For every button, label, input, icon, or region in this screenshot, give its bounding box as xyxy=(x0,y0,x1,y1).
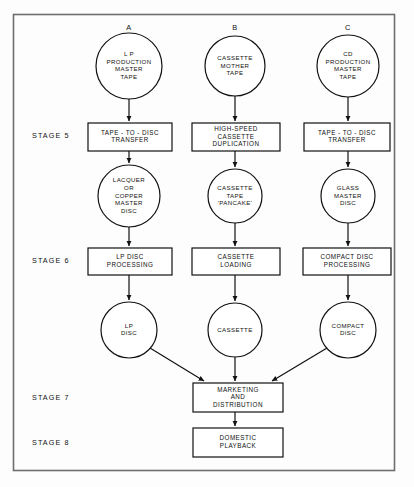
cassette-tape-pancake-circle: CASSETTETAPE'PANCAKE' xyxy=(208,169,262,223)
node-text-line: PLAYBACK xyxy=(220,442,257,449)
cassette-loading-box: CASSETTELOADING xyxy=(192,248,280,275)
node-text-line: CASSETTE xyxy=(218,133,255,140)
node-text-line: CASSETTE xyxy=(217,184,252,191)
tape-to-disc-transfer-c-box: TAPE - TO - DISCTRANSFER xyxy=(304,123,390,151)
node-text-line: OR xyxy=(124,184,134,191)
node-text-line: PRODUCTION xyxy=(107,58,152,65)
node-text-line: TRANSFER xyxy=(111,136,149,143)
node-text-line: CASSETTE xyxy=(218,253,255,260)
connector-compact-disc-to-marketing xyxy=(272,348,327,381)
node-text-line: TAPE xyxy=(120,73,137,80)
node-text-line: DISC xyxy=(121,329,137,336)
node-text-line: DISC xyxy=(340,199,356,206)
connector-lp-disc-to-marketing xyxy=(150,348,204,381)
node-text-line: PROCESSING xyxy=(107,261,154,268)
high-speed-cassette-duplication-box: HIGH-SPEEDCASSETTEDUPLICATION xyxy=(192,123,280,151)
glass-master-disc-circle: GLASSMASTERDISC xyxy=(321,169,375,223)
node-text-line: MASTER xyxy=(115,199,143,206)
column-label-b: B xyxy=(232,23,237,32)
node-text-line: CASSETTE xyxy=(217,54,252,61)
stage-labels-layer: STAGE 5STAGE 6STAGE 7STAGE 8 xyxy=(32,131,70,447)
node-text-line: LP xyxy=(125,322,133,329)
node-text-line: TAPE xyxy=(226,69,243,76)
node-text-line: TRANSFER xyxy=(328,136,366,143)
lacquer-or-copper-master-disc-circle: LACQUERORCOPPERMASTERDISC xyxy=(98,165,160,227)
stage-6-label: STAGE 6 xyxy=(32,256,70,265)
node-text-line: L P xyxy=(124,50,134,57)
node-text-line: GLASS xyxy=(337,184,359,191)
flowchart-canvas: TAPE - TO - DISCTRANSFERHIGH-SPEEDCASSET… xyxy=(0,0,414,487)
circles-layer: L PPRODUCTIONMASTERTAPECASSETTEMOTHERTAP… xyxy=(96,33,379,358)
tape-to-disc-transfer-a-box: TAPE - TO - DISCTRANSFER xyxy=(88,123,172,151)
node-text-line: CD xyxy=(343,50,353,57)
lp-disc-processing-box: LP DISCPROCESSING xyxy=(88,248,172,275)
cd-production-master-tape-circle: CDPRODUCTIONMASTERTAPE xyxy=(317,35,379,97)
node-text-line: AND xyxy=(231,393,246,400)
cassette-mother-tape-circle: CASSETTEMOTHERTAPE xyxy=(205,36,265,96)
node-text-line: TAPE xyxy=(339,73,356,80)
node-text-line: LOADING xyxy=(220,261,252,268)
node-text-line: COMPACT xyxy=(332,322,365,329)
node-text-line: PRODUCTION xyxy=(326,58,371,65)
node-text-line: DUPLICATION xyxy=(213,140,260,147)
node-text-line: HIGH-SPEED xyxy=(214,125,258,132)
node-text-line: MASTER xyxy=(115,65,143,72)
domestic-playback-box: DOMESTICPLAYBACK xyxy=(193,428,283,457)
node-text-line: 'PANCAKE' xyxy=(218,199,253,206)
node-text-line: LACQUER xyxy=(113,176,145,183)
lp-production-master-tape-circle: L PPRODUCTIONMASTERTAPE xyxy=(96,33,162,99)
column-label-c: C xyxy=(345,23,351,32)
node-text-line: DISC xyxy=(340,329,356,336)
node-text-line: COMPACT DISC xyxy=(320,253,373,260)
node-text-line: DISC xyxy=(121,207,137,214)
stage-5-label: STAGE 5 xyxy=(32,131,70,140)
marketing-and-distribution-box: MARKETINGANDDISTRIBUTION xyxy=(193,383,283,412)
node-text-line: MASTER xyxy=(334,192,362,199)
stage-8-label: STAGE 8 xyxy=(32,438,70,447)
node-text-line: LP DISC xyxy=(116,253,144,260)
cassette-circle: CASSETTE xyxy=(208,303,262,357)
node-text-line: TAPE - TO - DISC xyxy=(318,129,376,136)
node-text-line: TAPE - TO - DISC xyxy=(101,129,159,136)
flowchart-diagram: TAPE - TO - DISCTRANSFERHIGH-SPEEDCASSET… xyxy=(0,0,414,487)
lp-disc-circle: LPDISC xyxy=(101,302,157,358)
node-text-line: MOTHER xyxy=(221,62,250,69)
node-text-line: PROCESSING xyxy=(324,261,371,268)
column-label-a: A xyxy=(126,23,131,32)
node-text-line: MARKETING xyxy=(217,386,258,393)
compact-disc-processing-box: COMPACT DISCPROCESSING xyxy=(303,248,391,275)
compact-disc-circle: COMPACTDISC xyxy=(320,302,376,358)
node-text-line: DOMESTIC xyxy=(220,434,257,441)
node-text-line: COPPER xyxy=(115,192,143,199)
stage-7-label: STAGE 7 xyxy=(32,393,70,402)
node-text-line: MASTER xyxy=(334,65,362,72)
node-text-line: TAPE xyxy=(226,192,243,199)
node-text-line: DISTRIBUTION xyxy=(213,401,263,408)
node-text-line: CASSETTE xyxy=(217,326,252,333)
column-labels-layer: ABC xyxy=(126,23,351,32)
